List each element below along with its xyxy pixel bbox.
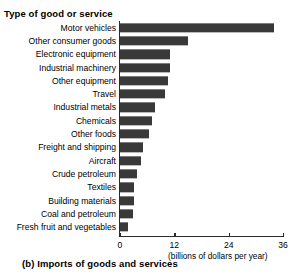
bar-fill xyxy=(120,143,143,152)
bar-row: Industrial machinery xyxy=(0,61,300,74)
axis-tick xyxy=(283,233,284,237)
bar-track xyxy=(120,196,134,205)
bar-category-label: Crude petroleum xyxy=(52,170,116,179)
bar-fill xyxy=(120,222,128,231)
bar-fill xyxy=(120,50,170,59)
bar-track xyxy=(120,209,133,218)
bar-row: Crude petroleum xyxy=(0,167,300,180)
bar-category-label: Freight and shipping xyxy=(38,143,116,152)
bar-row: Textiles xyxy=(0,181,300,194)
bar-fill xyxy=(120,209,133,218)
value-axis-unit-label: (billions of dollars per year) xyxy=(168,251,268,261)
bar-row: Fresh fruit and vegetables xyxy=(0,220,300,233)
axis-tick-label: 24 xyxy=(224,240,234,250)
bar-fill xyxy=(120,116,152,125)
axis-tick-label: 12 xyxy=(170,240,180,250)
bar-row: Chemicals xyxy=(0,114,300,127)
axis-tick xyxy=(174,233,175,237)
bar-track xyxy=(120,103,155,112)
bar-row: Motor vehicles xyxy=(0,21,300,34)
axis-tick xyxy=(120,233,121,237)
bar-category-label: Other equipment xyxy=(52,77,116,86)
bar-row: Other foods xyxy=(0,127,300,140)
bar-track xyxy=(120,116,152,125)
bar-track xyxy=(120,50,170,59)
bar-category-label: Motor vehicles xyxy=(61,23,116,32)
bar-fill xyxy=(120,23,274,32)
bar-fill xyxy=(120,156,141,165)
bar-category-label: Building materials xyxy=(48,196,116,205)
bar-fill xyxy=(120,183,134,192)
bar-row: Electronic equipment xyxy=(0,48,300,61)
bar-track xyxy=(120,169,137,178)
bar-category-label: Textiles xyxy=(87,183,116,192)
bar-row: Travel xyxy=(0,87,300,100)
value-axis-baseline xyxy=(119,21,120,237)
plot-area: Motor vehiclesOther consumer goodsElectr… xyxy=(0,21,300,236)
bar-track xyxy=(120,23,274,32)
bar-category-label: Other consumer goods xyxy=(29,37,116,46)
bar-fill xyxy=(120,76,168,85)
bar-fill xyxy=(120,103,155,112)
bar-track xyxy=(120,183,134,192)
bar-category-label: Industrial metals xyxy=(53,103,116,112)
bar-category-label: Travel xyxy=(92,90,116,99)
bar-track xyxy=(120,89,165,98)
bar-category-label: Coal and petroleum xyxy=(41,210,116,219)
bar-row: Aircraft xyxy=(0,154,300,167)
imports-bar-chart-figure: Type of good or service Motor vehiclesOt… xyxy=(0,0,300,276)
bar-category-label: Aircraft xyxy=(89,156,116,165)
bar-row: Coal and petroleum xyxy=(0,207,300,220)
bar-track xyxy=(120,76,168,85)
bar-track xyxy=(120,222,128,231)
bar-fill xyxy=(120,63,170,72)
bar-row: Freight and shipping xyxy=(0,141,300,154)
bar-track xyxy=(120,143,143,152)
bar-fill xyxy=(120,89,165,98)
figure-caption: (b) Imports of goods and services xyxy=(22,258,178,269)
bar-category-label: Industrial machinery xyxy=(39,63,116,72)
axis-tick-label: 0 xyxy=(118,240,123,250)
category-axis-title: Type of good or service xyxy=(4,8,113,19)
bar-fill xyxy=(120,129,149,138)
bar-row: Other equipment xyxy=(0,74,300,87)
bar-fill xyxy=(120,169,137,178)
value-axis-line xyxy=(119,236,283,237)
bar-track xyxy=(120,36,188,45)
axis-tick-label: 36 xyxy=(278,240,288,250)
bar-track xyxy=(120,129,149,138)
bar-track xyxy=(120,156,141,165)
bar-row: Building materials xyxy=(0,194,300,207)
bar-fill xyxy=(120,196,134,205)
axis-tick xyxy=(229,233,230,237)
value-axis: (billions of dollars per year) 0122436 xyxy=(0,236,300,276)
bar-category-label: Electronic equipment xyxy=(36,50,116,59)
bar-category-label: Fresh fruit and vegetables xyxy=(17,223,116,232)
bar-row: Other consumer goods xyxy=(0,34,300,47)
bar-fill xyxy=(120,36,188,45)
bar-category-label: Chemicals xyxy=(76,116,116,125)
bar-row: Industrial metals xyxy=(0,101,300,114)
bar-track xyxy=(120,63,170,72)
bar-category-label: Other foods xyxy=(71,130,116,139)
